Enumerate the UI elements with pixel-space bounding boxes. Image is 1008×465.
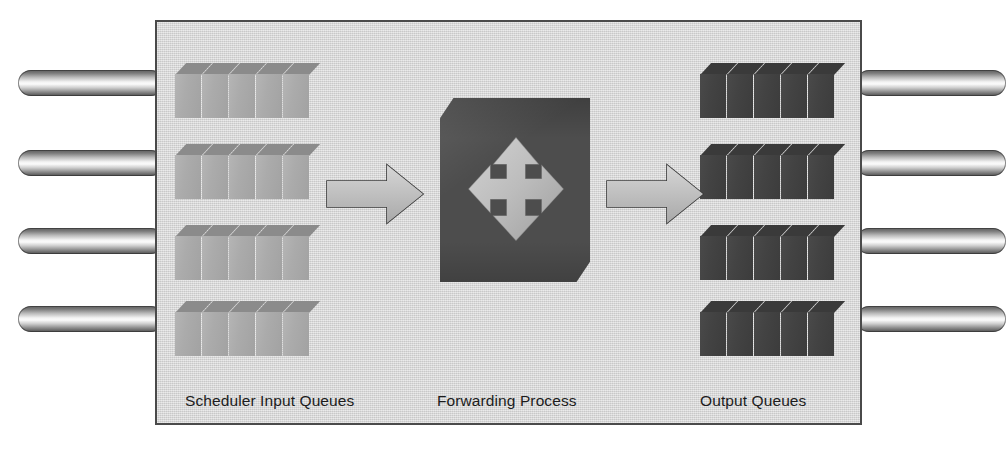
input-queue-packet-3-2	[202, 236, 228, 280]
packet-front-face	[781, 236, 807, 280]
caption-output-queues: Output Queues	[700, 392, 806, 410]
diagram-canvas: Scheduler Input Queues Forwarding Proces…	[0, 0, 1008, 465]
packet-front-face	[229, 312, 255, 356]
input-queue-packet-1-1	[175, 74, 201, 118]
input-queue-packet-1-2	[202, 74, 228, 118]
packet-front-face	[700, 236, 726, 280]
input-queue-packet-2-2	[202, 155, 228, 199]
input-queue-packet-3-4	[256, 236, 282, 280]
output-queue-packet-1-2	[727, 74, 753, 118]
packet-front-face	[808, 155, 834, 199]
output-queue-packet-4-1	[700, 312, 726, 356]
network-link-left-4	[18, 306, 164, 332]
input-queue-row-1	[175, 62, 320, 118]
egress-flow-arrow-icon	[605, 163, 705, 225]
packet-front-face	[808, 74, 834, 118]
packet-front-face	[229, 236, 255, 280]
output-queue-row-2	[700, 143, 845, 199]
packet-front-face	[256, 312, 282, 356]
network-link-right-2	[856, 150, 1006, 176]
packet-front-face	[229, 74, 255, 118]
packet-front-face	[175, 74, 201, 118]
packet-front-face	[781, 312, 807, 356]
output-queue-row-3	[700, 224, 845, 280]
input-queue-row-4	[175, 300, 320, 356]
ingress-flow-arrow-icon	[325, 163, 425, 225]
input-queue-packet-4-2	[202, 312, 228, 356]
output-queue-packet-3-1	[700, 236, 726, 280]
input-queue-packet-3-5	[283, 236, 309, 280]
output-queue-packet-4-3	[754, 312, 780, 356]
input-queue-packet-4-4	[256, 312, 282, 356]
packet-front-face	[700, 312, 726, 356]
output-queue-packet-1-5	[808, 74, 834, 118]
input-queue-packet-2-3	[229, 155, 255, 199]
packet-front-face	[175, 155, 201, 199]
packet-front-face	[754, 74, 780, 118]
output-queue-packet-3-4	[781, 236, 807, 280]
output-queue-packet-4-2	[727, 312, 753, 356]
packet-front-face	[754, 236, 780, 280]
output-queue-packet-2-3	[754, 155, 780, 199]
network-link-right-3	[856, 228, 1006, 254]
packet-front-face	[700, 74, 726, 118]
output-queue-packet-4-5	[808, 312, 834, 356]
output-queue-packet-1-1	[700, 74, 726, 118]
network-link-right-4	[856, 306, 1006, 332]
packet-front-face	[727, 74, 753, 118]
packet-front-face	[229, 155, 255, 199]
input-queue-packet-3-3	[229, 236, 255, 280]
output-queue-packet-2-2	[727, 155, 753, 199]
caption-forwarding-process: Forwarding Process	[437, 392, 577, 410]
packet-front-face	[754, 312, 780, 356]
output-queue-packet-3-2	[727, 236, 753, 280]
packet-front-face	[727, 312, 753, 356]
output-queue-packet-1-4	[781, 74, 807, 118]
packet-front-face	[202, 312, 228, 356]
packet-front-face	[781, 155, 807, 199]
packet-front-face	[727, 155, 753, 199]
input-queue-packet-2-5	[283, 155, 309, 199]
packet-front-face	[175, 236, 201, 280]
packet-front-face	[283, 312, 309, 356]
network-link-right-1	[856, 70, 1006, 96]
packet-front-face	[283, 155, 309, 199]
four-way-move-arrow-icon	[466, 134, 566, 244]
packet-front-face	[202, 236, 228, 280]
output-queue-packet-4-4	[781, 312, 807, 356]
packet-front-face	[754, 155, 780, 199]
input-queue-packet-2-4	[256, 155, 282, 199]
packet-front-face	[781, 74, 807, 118]
input-queue-packet-1-5	[283, 74, 309, 118]
packet-front-face	[256, 236, 282, 280]
packet-front-face	[283, 74, 309, 118]
output-queue-packet-3-3	[754, 236, 780, 280]
output-queue-packet-2-4	[781, 155, 807, 199]
output-queue-packet-3-5	[808, 236, 834, 280]
input-queue-packet-2-1	[175, 155, 201, 199]
caption-scheduler-input-queues: Scheduler Input Queues	[185, 392, 354, 410]
packet-front-face	[256, 155, 282, 199]
network-link-left-3	[18, 228, 164, 254]
output-queue-packet-1-3	[754, 74, 780, 118]
packet-front-face	[808, 312, 834, 356]
packet-front-face	[175, 312, 201, 356]
input-queue-row-2	[175, 143, 320, 199]
output-queue-row-1	[700, 62, 845, 118]
input-queue-packet-1-4	[256, 74, 282, 118]
network-link-left-1	[18, 70, 164, 96]
input-queue-packet-1-3	[229, 74, 255, 118]
input-queue-packet-4-1	[175, 312, 201, 356]
packet-front-face	[727, 236, 753, 280]
network-link-left-2	[18, 150, 164, 176]
output-queue-packet-2-5	[808, 155, 834, 199]
packet-front-face	[283, 236, 309, 280]
input-queue-packet-4-3	[229, 312, 255, 356]
input-queue-row-3	[175, 224, 320, 280]
input-queue-packet-3-1	[175, 236, 201, 280]
input-queue-packet-4-5	[283, 312, 309, 356]
output-queue-row-4	[700, 300, 845, 356]
packet-front-face	[202, 155, 228, 199]
packet-front-face	[808, 236, 834, 280]
packet-front-face	[202, 74, 228, 118]
